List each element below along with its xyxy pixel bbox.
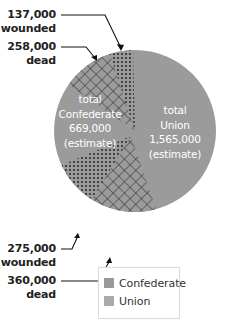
pie-label-line: 1,565,000 (139, 132, 211, 147)
legend-item-confederate: Confederate (104, 277, 186, 289)
pie-label-line: (estimate) (139, 147, 211, 162)
legend-label: Union (119, 295, 150, 308)
label-value: 137,000 (0, 8, 56, 22)
legend-label: Confederate (119, 277, 186, 290)
label-value: 360,000 (0, 274, 56, 288)
label-confederate-wounded: 137,000 wounded (0, 8, 56, 36)
label-sub: dead (0, 54, 56, 68)
leader-conf-wounded (61, 15, 120, 46)
arrow-icon (74, 233, 80, 238)
legend-swatch-union (104, 296, 114, 306)
label-value: 275,000 (0, 242, 56, 256)
pie-label-line: total (139, 103, 211, 118)
label-value: 258,000 (0, 40, 56, 54)
label-union-dead: 360,000 dead (0, 274, 56, 302)
arrow-icon (106, 257, 112, 263)
label-confederate-dead: 258,000 dead (0, 40, 56, 68)
label-sub: dead (0, 288, 56, 302)
arrow-icon (117, 44, 124, 51)
label-sub: wounded (0, 256, 56, 270)
legend-swatch-confederate (104, 278, 114, 288)
legend-item-union: Union (104, 295, 150, 307)
pie-label-line: Confederate (53, 107, 127, 122)
pie-label-union: total Union 1,565,000 (estimate) (139, 103, 211, 161)
leader-union-wounded (61, 238, 77, 249)
legend: Confederate Union (98, 267, 180, 319)
pie-label-line: Union (139, 118, 211, 133)
label-sub: wounded (0, 22, 56, 36)
arrow-icon (91, 55, 97, 61)
pie-label-line: 669,000 (53, 121, 127, 136)
pie-label-line: total (53, 92, 127, 107)
pie-label-line: (estimate) (53, 136, 127, 151)
pie-label-confederate: total Confederate 669,000 (estimate) (53, 92, 127, 150)
label-union-wounded: 275,000 wounded (0, 242, 56, 270)
leader-conf-dead (61, 47, 95, 58)
